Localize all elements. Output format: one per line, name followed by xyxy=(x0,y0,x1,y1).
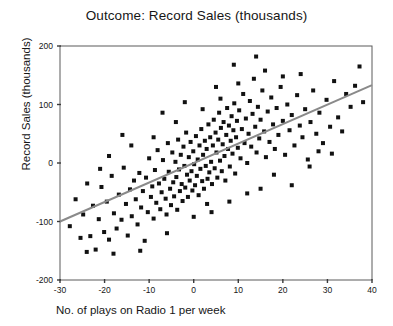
data-point-marker xyxy=(249,145,253,149)
data-point-marker xyxy=(99,185,103,189)
data-point-marker xyxy=(186,195,190,199)
data-point-marker xyxy=(197,193,201,197)
data-point-marker xyxy=(198,167,202,171)
data-point-marker xyxy=(126,234,130,238)
data-point-marker xyxy=(68,224,72,228)
data-point-marker xyxy=(290,183,294,187)
data-point-marker xyxy=(94,248,98,252)
x-axis-ticks: -30-20-10010203040 xyxy=(54,279,377,295)
data-point-marker xyxy=(97,217,101,221)
data-point-marker xyxy=(195,174,199,178)
data-point-marker xyxy=(336,115,340,119)
data-point-marker xyxy=(173,160,177,164)
data-point-marker xyxy=(224,133,228,137)
data-point-marker xyxy=(225,106,229,110)
data-point-marker xyxy=(146,210,150,214)
data-point-marker xyxy=(129,143,133,147)
data-point-marker xyxy=(222,154,226,158)
x-axis-label: No. of plays on Radio 1 per week xyxy=(56,304,225,316)
data-point-marker xyxy=(219,126,223,130)
plot-frame xyxy=(60,46,372,280)
data-point-marker xyxy=(179,153,183,157)
data-point-marker xyxy=(259,187,263,191)
data-point-marker xyxy=(321,141,325,145)
data-point-marker xyxy=(317,149,321,153)
data-point-marker xyxy=(171,180,175,184)
data-point-marker xyxy=(169,203,173,207)
data-point-marker xyxy=(165,212,169,216)
data-point-marker xyxy=(201,107,205,111)
data-point-marker xyxy=(220,169,224,173)
data-point-marker xyxy=(259,118,263,122)
data-point-marker xyxy=(174,120,178,124)
data-point-marker xyxy=(102,230,106,234)
x-tick-label: -10 xyxy=(143,285,156,295)
data-point-marker xyxy=(110,174,114,178)
data-point-marker xyxy=(217,111,221,115)
data-point-marker xyxy=(218,97,222,101)
data-point-marker xyxy=(221,142,225,146)
y-tick-label: -100 xyxy=(36,217,53,227)
data-point-marker xyxy=(328,125,332,129)
data-point-marker xyxy=(199,127,203,131)
data-point-marker xyxy=(213,166,217,170)
data-point-marker xyxy=(81,212,85,216)
data-point-marker xyxy=(252,77,256,81)
data-point-marker xyxy=(183,186,187,190)
data-point-marker xyxy=(111,252,115,256)
data-point-marker xyxy=(228,165,232,169)
data-point-marker xyxy=(201,153,205,157)
data-point-marker xyxy=(311,88,315,92)
data-point-marker xyxy=(303,107,307,111)
data-point-marker xyxy=(215,176,219,180)
data-point-marker xyxy=(205,147,209,151)
data-point-marker xyxy=(254,55,258,59)
data-point-marker xyxy=(332,79,336,83)
y-tick-label: -200 xyxy=(36,275,53,285)
data-point-marker xyxy=(235,119,239,123)
data-point-marker xyxy=(223,179,227,183)
data-point-marker xyxy=(227,124,231,128)
data-point-marker xyxy=(266,110,270,114)
y-axis-label: Record Sales (thousands) xyxy=(20,24,32,184)
x-tick-label: 40 xyxy=(367,285,377,295)
data-point-marker xyxy=(164,197,168,201)
data-point-marker xyxy=(211,143,215,147)
data-point-marker xyxy=(260,88,264,92)
data-point-marker xyxy=(263,69,267,73)
data-point-marker xyxy=(165,231,169,235)
data-point-marker xyxy=(210,210,214,214)
data-point-marker xyxy=(257,136,261,140)
data-point-marker xyxy=(229,139,233,143)
data-point-marker xyxy=(292,143,296,147)
data-point-marker xyxy=(174,175,178,179)
data-point-marker xyxy=(232,101,236,105)
data-point-marker xyxy=(209,160,213,164)
data-point-marker xyxy=(143,239,147,243)
data-point-marker xyxy=(300,135,304,139)
data-point-marker xyxy=(218,159,222,163)
data-point-marker xyxy=(212,118,216,122)
data-point-marker xyxy=(306,157,310,161)
data-point-marker xyxy=(194,134,198,138)
data-point-marker xyxy=(273,147,277,151)
data-point-marker xyxy=(281,119,285,123)
data-point-marker xyxy=(107,238,111,242)
data-point-marker xyxy=(247,132,251,136)
data-point-marker xyxy=(353,84,357,88)
y-axis-ticks: -200-1000100200 xyxy=(36,41,61,285)
data-point-marker xyxy=(275,106,279,110)
data-point-marker xyxy=(283,153,287,157)
data-point-marker xyxy=(361,100,365,104)
data-point-marker xyxy=(232,63,236,67)
data-point-marker xyxy=(230,152,234,156)
data-point-marker xyxy=(255,150,259,154)
data-point-marker xyxy=(206,122,210,126)
plot-canvas: -200-1000100200 -30-20-10010203040 xyxy=(0,0,393,326)
data-point-marker xyxy=(214,131,218,135)
data-point-marker xyxy=(358,64,362,68)
data-point-marker xyxy=(88,234,92,238)
data-point-marker xyxy=(149,195,153,199)
data-point-marker xyxy=(210,182,214,186)
data-point-marker xyxy=(298,124,302,128)
